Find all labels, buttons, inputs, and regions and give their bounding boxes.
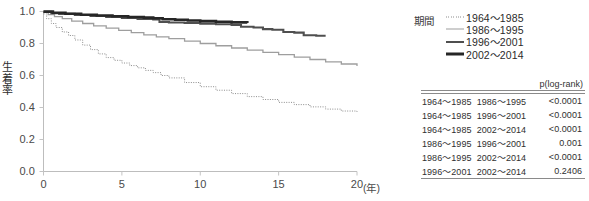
x-tick-label: 0 — [31, 178, 57, 190]
pvalue-group-b: 1986～1995 — [476, 94, 531, 109]
x-tick-label: 5 — [109, 178, 135, 190]
legend-title: 期間 — [414, 13, 434, 28]
pvalue-value: 0.001 — [530, 136, 585, 150]
pvalue-value: <0.0001 — [530, 150, 585, 164]
legend-line-swatch-icon — [446, 11, 464, 23]
pvalue-table: p(log-rank) 1964～19851986～1995<0.0001196… — [421, 79, 585, 179]
table-row: 1964～19851986～1995<0.0001 — [421, 94, 585, 109]
y-tick-label: 0.4 — [9, 101, 35, 113]
pvalue-value: <0.0001 — [530, 122, 585, 136]
table-row: 1996～20012002～20140.2406 — [421, 164, 585, 179]
y-axis-ticks — [40, 12, 44, 172]
legend-item-4[interactable]: 2002～2014 — [446, 48, 524, 60]
plot-svg — [0, 0, 400, 201]
y-tick-label: 0.8 — [9, 37, 35, 49]
y-tick-label: 0.0 — [9, 165, 35, 177]
series-line-1 — [44, 14, 358, 113]
pvalue-group-a: 1996～2001 — [421, 164, 476, 179]
pvalue-value: <0.0001 — [530, 108, 585, 122]
pvalue-table-grid: 1964～19851986～1995<0.00011964～19851996～2… — [421, 90, 585, 179]
legend-line-swatch-icon — [446, 48, 464, 60]
pvalue-group-b: 1996～2001 — [476, 136, 531, 150]
x-tick-label: 10 — [187, 178, 213, 190]
pvalue-value: <0.0001 — [530, 94, 585, 109]
x-tick-label: 20 — [344, 178, 370, 190]
x-tick-label: 15 — [266, 178, 292, 190]
pvalue-group-b: 2002～2014 — [476, 164, 531, 179]
pvalue-group-b: 2002～2014 — [476, 122, 531, 136]
pvalue-group-a: 1964～1985 — [421, 108, 476, 122]
pvalue-value: 0.2406 — [530, 164, 585, 179]
pvalue-table-body: 1964～19851986～1995<0.00011964～19851996～2… — [421, 94, 585, 179]
series-lines — [44, 12, 358, 113]
table-row: 1964～19851996～2001<0.0001 — [421, 108, 585, 122]
pvalue-group-a: 1986～1995 — [421, 136, 476, 150]
y-tick-label: 0.2 — [9, 133, 35, 145]
legend: 期間 1964～19851986～19951996～20012002～2014 — [414, 11, 589, 67]
x-axis-ticks — [44, 172, 358, 176]
pvalue-group-a: 1964～1985 — [421, 122, 476, 136]
table-row: 1986～19951996～20010.001 — [421, 136, 585, 150]
pvalue-group-a: 1986～1995 — [421, 150, 476, 164]
legend-item-label: 2002～2014 — [466, 47, 524, 62]
y-tick-label: 1.0 — [9, 5, 35, 17]
legend-line-swatch-icon — [446, 36, 464, 48]
plot-area: 生着率 (年) 0.00.20.40.60.81.0 05101520 — [0, 0, 400, 201]
table-row: 1964～19852002～2014<0.0001 — [421, 122, 585, 136]
pvalue-group-b: 2002～2014 — [476, 150, 531, 164]
legend-line-swatch-icon — [446, 23, 464, 35]
pvalue-group-b: 1996～2001 — [476, 108, 531, 122]
pvalue-table-caption: p(log-rank) — [421, 79, 585, 90]
pvalue-group-a: 1964～1985 — [421, 94, 476, 109]
y-tick-label: 0.6 — [9, 69, 35, 81]
survival-curve-figure: 生着率 (年) 0.00.20.40.60.81.0 05101520 期間 1… — [0, 0, 589, 201]
table-row: 1986～19952002～2014<0.0001 — [421, 150, 585, 164]
